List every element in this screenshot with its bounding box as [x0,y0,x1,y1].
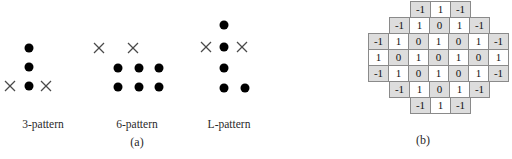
pattern-label: L-pattern [208,118,251,130]
grid-cell[interactable]: -1 [389,81,410,98]
grid-cell[interactable]: 0 [429,81,450,98]
grid-row: -1101-1 [368,81,512,98]
cross-mark-icon [4,80,17,93]
grid-cell[interactable]: -1 [410,97,431,114]
filled-dot-icon [220,84,229,93]
grid-cell[interactable]: -1 [469,17,490,34]
grid-cell[interactable]: 0 [429,17,450,34]
panel-b-grid: -11-1-1101-1-110101-11010101-110101-1-11… [270,0,507,159]
grid-cell-empty [368,97,389,114]
filled-dot-icon [220,43,229,52]
grid-cell[interactable]: -1 [368,65,389,82]
grid-cell[interactable]: 0 [388,49,409,66]
grid-cell[interactable]: 1 [368,49,389,66]
grid-cell[interactable]: -1 [450,1,471,18]
weight-grid: -11-1-1101-1-110101-11010101-110101-1-11… [368,1,512,113]
grid-cell-empty [389,1,410,18]
filled-dot-icon [135,83,144,92]
grid-cell[interactable]: -1 [488,65,509,82]
grid-cell[interactable]: 1 [409,81,430,98]
grid-cell[interactable]: -1 [469,81,490,98]
grid-cell[interactable]: 1 [449,81,470,98]
grid-cell[interactable]: -1 [488,33,509,50]
panel-a-patterns: 3-pattern6-patternL-pattern (a) [0,0,270,159]
grid-cell-empty [489,17,510,34]
grid-cell[interactable]: -1 [450,97,471,114]
grid-row: -110101-1 [368,33,512,50]
grid-cell-empty [389,97,410,114]
filled-dot-icon [114,64,123,73]
grid-cell[interactable]: 1 [428,33,449,50]
grid-cell[interactable]: 1 [388,33,409,50]
grid-row: 1010101 [368,49,512,66]
cross-mark-icon [200,41,213,54]
grid-row: -11-1 [368,1,512,18]
filled-dot-icon [25,82,34,91]
cross-mark-icon [127,42,140,55]
grid-cell[interactable]: 1 [468,65,489,82]
grid-cell-empty [491,97,512,114]
grid-cell[interactable]: 0 [408,33,429,50]
filled-dot-icon [220,21,229,30]
grid-cell[interactable]: -1 [410,1,431,18]
grid-cell[interactable]: 1 [430,1,451,18]
grid-cell[interactable]: 1 [449,17,470,34]
grid-cell-empty [491,1,512,18]
filled-dot-icon [25,63,34,72]
grid-cell-empty [368,1,389,18]
grid-cell-empty [368,81,389,98]
filled-dot-icon [25,44,34,53]
cross-mark-icon [236,41,249,54]
grid-cell[interactable]: 0 [408,65,429,82]
filled-dot-icon [114,83,123,92]
panel-a-caption: (a) [130,135,143,150]
grid-cell[interactable]: -1 [389,17,410,34]
grid-cell[interactable]: -1 [368,33,389,50]
grid-cell-empty [489,81,510,98]
grid-cell-empty [470,97,491,114]
grid-cell-empty [470,1,491,18]
filled-dot-icon [155,64,164,73]
grid-cell[interactable]: 1 [409,17,430,34]
grid-cell-empty [368,17,389,34]
cross-mark-icon [40,80,53,93]
filled-dot-icon [220,64,229,73]
grid-cell[interactable]: 0 [448,65,469,82]
filled-dot-icon [155,83,164,92]
pattern-label: 6-pattern [116,118,158,130]
grid-cell[interactable]: 0 [468,49,489,66]
grid-cell[interactable]: 1 [388,65,409,82]
grid-cell[interactable]: 1 [448,49,469,66]
grid-cell[interactable]: 0 [428,49,449,66]
filled-dot-icon [135,64,144,73]
grid-cell[interactable]: 1 [430,97,451,114]
grid-cell[interactable]: 1 [468,33,489,50]
cross-mark-icon [93,42,106,55]
panel-b-caption: (b) [416,133,430,148]
grid-row: -11-1 [368,97,512,114]
grid-cell[interactable]: 1 [488,49,509,66]
grid-row: -110101-1 [368,65,512,82]
grid-cell[interactable]: 1 [408,49,429,66]
filled-dot-icon [241,84,250,93]
pattern-label: 3-pattern [22,118,64,130]
grid-row: -1101-1 [368,17,512,34]
grid-cell[interactable]: 0 [448,33,469,50]
grid-cell[interactable]: 1 [428,65,449,82]
